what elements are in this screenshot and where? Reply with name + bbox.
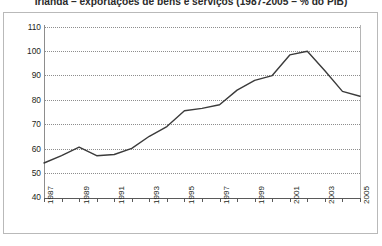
x-tick-label-1995: 1995 [188,164,196,204]
x-tick-mark-1990 [97,198,98,202]
x-tick-mark-1999 [255,198,256,202]
x-tick-label-2005: 2005 [363,164,371,204]
x-tick-mark-1995 [184,198,185,202]
x-tick-mark-1998 [237,198,238,202]
x-tick-label-1997: 1997 [223,164,231,204]
x-tick-mark-1994 [167,198,168,202]
x-tick-mark-1997 [220,198,221,202]
x-tick-label-1987: 1987 [47,164,55,204]
chart-figure: Irlanda – exportações de bens e serviços… [0,0,382,246]
x-tick-label-1999: 1999 [258,164,266,204]
x-tick-mark-1992 [132,198,133,202]
x-tick-mark-1988 [62,198,63,202]
x-tick-label-1989: 1989 [83,164,91,204]
x-tick-mark-1993 [149,198,150,202]
x-tick-mark-2000 [272,198,273,202]
x-tick-mark-1987 [44,198,45,202]
series-polyline [44,51,360,163]
x-tick-mark-1991 [114,198,115,202]
x-tick-mark-2001 [290,198,291,202]
x-tick-mark-2002 [307,198,308,202]
x-tick-mark-1989 [79,198,80,202]
x-tick-label-2003: 2003 [328,164,336,204]
x-tick-mark-2003 [325,198,326,202]
x-tick-mark-2004 [342,198,343,202]
x-tick-label-1993: 1993 [153,164,161,204]
x-tick-mark-1996 [202,198,203,202]
series-line-chart [0,0,382,246]
x-tick-label-2001: 2001 [293,164,301,204]
x-tick-mark-2005 [360,198,361,202]
x-tick-label-1991: 1991 [118,164,126,204]
